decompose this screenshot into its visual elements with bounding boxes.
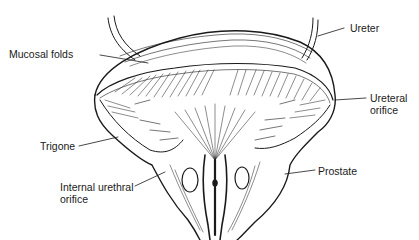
urethra-prostate (170, 155, 260, 240)
trigone-fan (175, 104, 255, 160)
leader-ureteral-orifice (335, 98, 366, 100)
label-internal-urethral-orifice: Internal urethral orifice (60, 181, 134, 205)
leader-trigone (79, 137, 118, 146)
right-ureter (302, 18, 318, 60)
leader-ureter (318, 28, 344, 36)
left-ureter (108, 16, 140, 60)
label-mucosal-folds: Mucosal folds (9, 48, 73, 60)
label-ureteral-orifice: Ureteral orifice (370, 92, 407, 116)
label-trigone: Trigone (40, 140, 75, 152)
label-prostate: Prostate (318, 165, 357, 177)
label-ureter: Ureter (350, 22, 379, 34)
leader-lines (79, 28, 366, 186)
leader-internal-urethral-orifice (135, 172, 165, 186)
